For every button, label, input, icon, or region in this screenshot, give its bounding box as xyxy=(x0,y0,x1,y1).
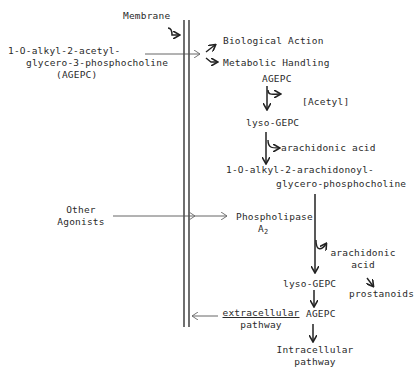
acetyl-label: [Acetyl] xyxy=(302,96,349,108)
extracellular-pathway-label: extracellular pathway xyxy=(220,307,302,331)
metabolic-handling-arrow xyxy=(206,58,217,62)
phospholipase-name: Phospholipase xyxy=(236,211,313,223)
intracellular-line1: Intracellular xyxy=(275,344,355,356)
membrane-bilayer xyxy=(184,20,189,327)
agepc-label: AGEPC xyxy=(262,73,292,85)
product-line1: 1-O-alkyl-2-arachidonoyl- xyxy=(226,164,374,176)
prostanoids-label: prostanoids xyxy=(349,288,414,300)
phospholipase-subtype: A2 xyxy=(236,223,313,238)
other-agonists-label: Other Agonists xyxy=(53,204,109,228)
resynth-lyso-gepc-label: lyso-GEPC xyxy=(283,278,336,290)
metabolic-handling-label: Metabolic Handling xyxy=(223,57,330,69)
product-line2: glycero-phosphocholine xyxy=(276,178,406,190)
agepc-name-line1: 1-O-alkyl-2-acetyl- xyxy=(8,45,168,57)
arachidonic-acid-label: arachidonic acid xyxy=(281,142,376,154)
extracellular-line1: extracellular xyxy=(220,307,302,319)
other-agonists-line2: Agonists xyxy=(53,216,109,228)
arachidonic-release-arrow xyxy=(316,240,326,249)
other-agonists-line1: Other xyxy=(53,204,109,216)
biological-action-label: Biological Action xyxy=(223,35,324,47)
arachidonic-to-prostanoids-arrow xyxy=(367,278,373,286)
resynth-agepc-label: AGEPC xyxy=(306,308,336,320)
membrane-label: Membrane xyxy=(123,10,170,22)
lyso-gepc-label: lyso-GEPC xyxy=(246,117,299,129)
phospholipase-label: Phospholipase A2 xyxy=(236,211,313,238)
biological-action-arrow xyxy=(206,45,215,52)
intracellular-pathway-label: Intracellular pathway xyxy=(275,344,355,368)
released-arachidonic-line2: acid xyxy=(330,259,396,271)
intracellular-line2: pathway xyxy=(275,356,355,368)
membrane-pointer-arrow xyxy=(168,28,179,35)
arachidonic-acid-input-arrow xyxy=(268,140,279,148)
acetyl-release-arrow xyxy=(268,90,280,94)
agepc-name-line3: (AGEPC) xyxy=(8,69,168,81)
agepc-full-name: 1-O-alkyl-2-acetyl- glycero-3-phosphocho… xyxy=(8,45,168,81)
released-arachidonic-acid-label: arachidonic acid xyxy=(330,247,396,271)
agepc-name-line2: glycero-3-phosphocholine xyxy=(8,57,168,69)
extracellular-line2: pathway xyxy=(220,319,302,331)
released-arachidonic-line1: arachidonic xyxy=(330,247,396,259)
